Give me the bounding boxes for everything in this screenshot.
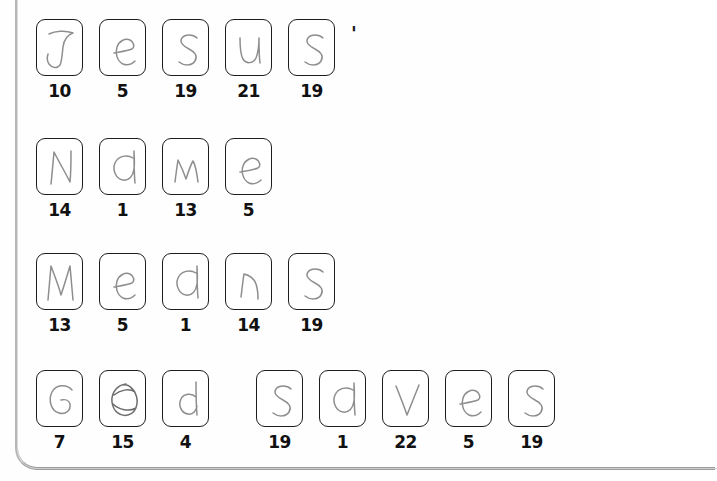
letter-cell[interactable]: 15 [99,370,146,451]
letter-number: 1 [180,317,191,334]
handwritten-letter-J [37,20,84,77]
letter-cell[interactable]: 21 [225,19,272,100]
letter-cell[interactable]: 19 [162,19,209,100]
letter-cell[interactable]: 14 [225,253,272,334]
letter-box[interactable] [36,138,83,195]
letter-box[interactable] [99,138,146,195]
letter-cell[interactable]: 5 [225,138,272,219]
letter-number: 14 [48,202,71,219]
handwritten-letter-e [100,254,147,311]
letter-box[interactable] [162,253,209,310]
letter-cell[interactable]: 7 [36,370,83,451]
letter-cell[interactable]: 19 [288,19,335,100]
letter-cell[interactable]: 13 [162,138,209,219]
letter-cell[interactable]: 5 [99,19,146,100]
letter-number: 21 [237,83,260,100]
letter-box[interactable] [508,370,555,427]
letter-strip: 715419122519 [36,370,571,451]
letter-number: 1 [117,202,128,219]
handwritten-letter-a [100,139,147,196]
letter-box[interactable] [225,253,272,310]
letter-number: 19 [174,83,197,100]
letter-number: 1 [337,434,348,451]
handwritten-letter-O [100,371,147,428]
letter-strip: 105192119 [36,19,351,100]
letter-cell[interactable]: 1 [319,370,366,451]
handwritten-letter-s [509,371,556,428]
letter-strip: 13511419 [36,253,351,334]
letter-number: 5 [243,202,254,219]
letter-cell[interactable]: 1 [99,138,146,219]
letter-box[interactable] [225,19,272,76]
handwritten-letter-n [226,254,273,311]
letter-number: 19 [520,434,543,451]
handwritten-letter-m [163,139,210,196]
letter-cell[interactable]: 14 [36,138,83,219]
letter-number: 5 [463,434,474,451]
handwritten-letter-s [257,371,304,428]
handwritten-letter-s [289,254,336,311]
letter-box[interactable] [256,370,303,427]
letter-box[interactable] [99,19,146,76]
letter-box[interactable] [36,253,83,310]
letter-number: 19 [268,434,291,451]
letter-box[interactable] [162,370,209,427]
letter-cell[interactable]: 13 [36,253,83,334]
handwritten-letter-N [37,139,84,196]
letter-number: 5 [117,317,128,334]
handwritten-letter-e [100,20,147,77]
handwritten-letter-s [163,20,210,77]
handwritten-letter-e [446,371,493,428]
letter-cell[interactable]: 10 [36,19,83,100]
handwritten-letter-G [37,371,84,428]
letter-number: 19 [300,317,323,334]
letter-cell[interactable]: 19 [288,253,335,334]
letter-box[interactable] [162,19,209,76]
handwritten-letter-u [226,20,273,77]
letter-number: 5 [117,83,128,100]
apostrophe-mark: ' [351,24,357,43]
letter-box[interactable] [288,19,335,76]
handwritten-letter-a [320,371,367,428]
letter-number: 13 [48,317,71,334]
letter-box[interactable] [288,253,335,310]
handwritten-letter-a [163,254,210,311]
letter-number: 10 [48,83,71,100]
letter-number: 7 [54,434,65,451]
word-space [225,370,256,451]
handwritten-letter-e [226,139,273,196]
letter-box[interactable] [36,370,83,427]
letter-box[interactable] [382,370,429,427]
handwritten-letter-M [37,254,84,311]
letter-number: 19 [300,83,323,100]
letter-box[interactable] [225,138,272,195]
letter-number: 13 [174,202,197,219]
letter-number: 15 [111,434,134,451]
letter-number: 22 [394,434,417,451]
handwritten-letter-v [383,371,430,428]
letter-number: 4 [180,434,191,451]
letter-strip: 141135 [36,138,288,219]
letter-box[interactable] [445,370,492,427]
letter-box[interactable] [319,370,366,427]
letter-box[interactable] [162,138,209,195]
letter-box[interactable] [99,253,146,310]
letter-box[interactable] [36,19,83,76]
letter-cell[interactable]: 4 [162,370,209,451]
letter-cell[interactable]: 22 [382,370,429,451]
handwritten-letter-d [163,371,210,428]
letter-cell[interactable]: 5 [445,370,492,451]
letter-cell[interactable]: 5 [99,253,146,334]
letter-cell[interactable]: 19 [508,370,555,451]
letter-number: 14 [237,317,260,334]
handwritten-letter-s [289,20,336,77]
letter-cell[interactable]: 19 [256,370,303,451]
letter-box[interactable] [99,370,146,427]
letter-cell[interactable]: 1 [162,253,209,334]
